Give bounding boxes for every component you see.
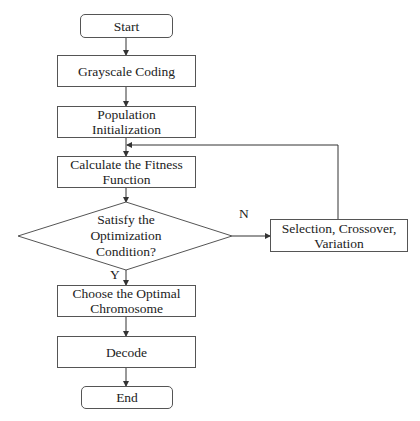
selection-line2: Variation bbox=[314, 236, 364, 251]
selection-line1: Selection, Crossover, bbox=[282, 221, 397, 236]
selection-crossover-variation-node: Selection, Crossover, Variation bbox=[270, 219, 408, 252]
grayscale-coding-label: Grayscale Coding bbox=[78, 64, 175, 79]
decode-label: Decode bbox=[106, 345, 147, 360]
condition-line3: Condition? bbox=[66, 244, 186, 260]
population-line1: Population bbox=[97, 107, 156, 122]
fitness-line2: Function bbox=[102, 172, 150, 187]
end-label: End bbox=[116, 390, 138, 405]
condition-text: Satisfy the Optimization Condition? bbox=[66, 212, 186, 260]
grayscale-coding-node: Grayscale Coding bbox=[57, 55, 196, 87]
fitness-line1: Calculate the Fitness bbox=[70, 157, 182, 172]
edge-label-no: N bbox=[239, 206, 249, 222]
start-label: Start bbox=[114, 19, 140, 34]
condition-line1: Satisfy the bbox=[66, 212, 186, 228]
population-initialization-node: Population Initialization bbox=[57, 106, 196, 138]
choose-optimal-chromosome-node: Choose the Optimal Chromosome bbox=[57, 285, 196, 317]
fitness-function-node: Calculate the Fitness Function bbox=[57, 156, 196, 188]
end-node: End bbox=[81, 386, 173, 409]
start-node: Start bbox=[80, 14, 173, 38]
choose-line2: Chromosome bbox=[90, 301, 163, 316]
edge-label-yes: Y bbox=[110, 267, 120, 283]
condition-line2: Optimization bbox=[66, 228, 186, 244]
population-line2: Initialization bbox=[92, 122, 161, 137]
choose-line1: Choose the Optimal bbox=[73, 286, 181, 301]
decode-node: Decode bbox=[57, 336, 196, 368]
